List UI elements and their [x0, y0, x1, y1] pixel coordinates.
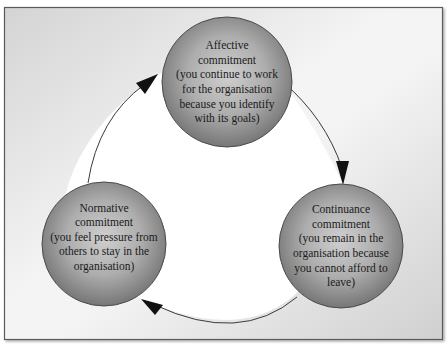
affective-commitment-label: Affective commitment (you continue to wo… [162, 34, 292, 130]
continuance-description: leave) [327, 275, 355, 290]
normative-commitment-label: Normative commitment (you feel pressure … [40, 196, 168, 278]
continuance-description: (you remain in the [299, 231, 384, 246]
normative-description: organisation) [74, 259, 134, 274]
continuance-description: organisation because [293, 246, 389, 261]
affective-description: because you identify [179, 97, 274, 112]
continuance-description: you cannot afford to [294, 261, 387, 276]
continuance-title: Continuance [312, 202, 370, 217]
affective-title: Affective [205, 38, 248, 53]
normative-title: Normative [79, 201, 128, 216]
normative-description: others to stay in the [59, 244, 149, 259]
continuance-subtitle: commitment [312, 217, 370, 232]
affective-description: with its goals) [194, 111, 259, 126]
affective-subtitle: commitment [198, 53, 256, 68]
commitment-cycle-diagram: Affective commitment (you continue to wo… [0, 0, 448, 346]
affective-description: (you continue to work [176, 67, 278, 82]
normative-description: (you feel pressure from [50, 230, 158, 245]
affective-description: for the organisation [182, 82, 272, 97]
normative-subtitle: commitment [75, 215, 133, 230]
continuance-commitment-label: Continuance commitment (you remain in th… [279, 198, 403, 294]
